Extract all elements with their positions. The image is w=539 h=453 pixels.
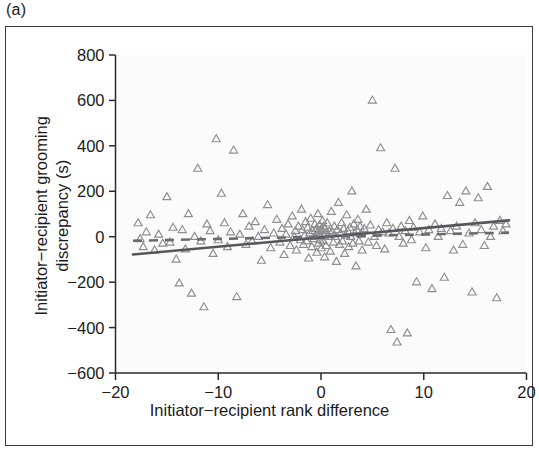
- x-tick-label: 10: [415, 383, 433, 401]
- x-tick-label: 20: [517, 383, 535, 401]
- x-tick-label: 0: [316, 383, 325, 401]
- y-tick-label: 0: [95, 228, 104, 246]
- x-tick-label: −10: [204, 383, 232, 401]
- y-tick-label: 200: [77, 182, 105, 200]
- y-tick-label: −600: [67, 364, 104, 382]
- y-axis-label: Initiator−recipient grooming discrepancy…: [31, 66, 73, 366]
- scatter-plot: −600−400−2000200400600800−20−1001020: [0, 0, 539, 453]
- y-tick-label: −400: [67, 319, 104, 337]
- x-axis-label: Initiator−recipient rank difference: [0, 401, 539, 420]
- y-tick-label: 600: [77, 91, 105, 109]
- y-tick-label: 800: [77, 46, 105, 64]
- y-tick-label: 400: [77, 137, 105, 155]
- figure-panel-a: (a) −600−400−2000200400600800−20−1001020…: [0, 0, 539, 453]
- y-tick-label: −200: [67, 273, 104, 291]
- x-tick-label: −20: [102, 383, 130, 401]
